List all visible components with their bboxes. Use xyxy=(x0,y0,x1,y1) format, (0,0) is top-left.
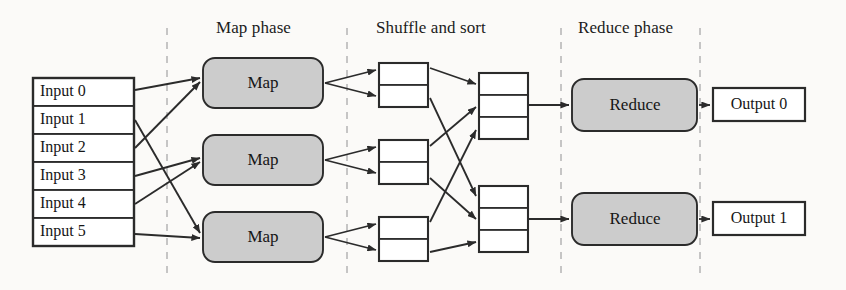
map-node-0 xyxy=(203,58,323,108)
map-node-1 xyxy=(203,135,323,185)
phase-label-reduce: Reduce phase xyxy=(578,18,673,38)
map-output-buffer-group xyxy=(379,63,428,261)
reduce-input-buffer-0-cell-2 xyxy=(479,117,528,139)
shuffle-arrow-group xyxy=(430,68,476,252)
arrow-map0-to-buffer0-cell0 xyxy=(325,70,376,83)
buffer-to-reduce-arrow-group xyxy=(529,105,569,219)
arrow-map1-to-buffer1-cell1 xyxy=(325,160,376,173)
map-to-buffer-arrow-group xyxy=(325,70,376,250)
map-output-buffer-2-cell-0 xyxy=(379,217,428,239)
map-node-2 xyxy=(203,212,323,262)
input-label-1: Input 1 xyxy=(40,110,86,128)
reduce-node-1 xyxy=(572,193,697,245)
arrow-shuffle-buffer0-to-reduce0 xyxy=(430,68,476,84)
arrow-map2-to-buffer2-cell0 xyxy=(325,224,376,237)
arrow-shuffle-buffer1-to-reduce1 xyxy=(430,178,476,219)
arrow-map0-to-buffer0-cell1 xyxy=(325,83,376,96)
arrow-map1-to-buffer1-cell0 xyxy=(325,147,376,160)
reduce-input-buffer-0-cell-1 xyxy=(479,95,528,117)
reduce-input-buffer-group xyxy=(479,73,528,252)
output-box-group xyxy=(713,88,805,235)
diagram-canvas xyxy=(0,0,846,290)
phase-label-shuffle: Shuffle and sort xyxy=(376,18,486,38)
map-output-buffer-2-cell-1 xyxy=(379,239,428,261)
arrow-input5-to-map2 xyxy=(135,234,200,238)
reduce-input-buffer-1-cell-1 xyxy=(479,208,528,230)
map-output-buffer-1-cell-0 xyxy=(379,140,428,162)
arrow-shuffle-buffer2-to-reduce1 xyxy=(430,242,476,252)
mapreduce-diagram: Map phase Shuffle and sort Reduce phase … xyxy=(0,0,846,290)
reduce-input-buffer-1-cell-2 xyxy=(479,230,528,252)
input-label-3: Input 3 xyxy=(40,166,86,184)
map-output-buffer-0-cell-1 xyxy=(379,85,428,107)
reduce-node-0 xyxy=(572,79,697,131)
map-output-buffer-0-cell-0 xyxy=(379,63,428,85)
map-output-buffer-1-cell-1 xyxy=(379,162,428,184)
arrow-shuffle-buffer2-to-reduce0 xyxy=(430,130,476,222)
reduce-input-buffer-1-cell-0 xyxy=(479,186,528,208)
arrow-input2-to-map0 xyxy=(135,82,200,148)
input-label-4: Input 4 xyxy=(40,194,86,212)
input-label-5: Input 5 xyxy=(40,222,86,240)
map-node-group xyxy=(203,58,323,262)
output-box-1 xyxy=(713,202,805,235)
phase-label-map: Map phase xyxy=(216,18,291,38)
input-label-0: Input 0 xyxy=(40,82,86,100)
output-box-0 xyxy=(713,88,805,121)
arrow-map2-to-buffer2-cell1 xyxy=(325,237,376,250)
reduce-node-group xyxy=(572,79,697,245)
reduce-input-buffer-0-cell-0 xyxy=(479,73,528,95)
input-label-2: Input 2 xyxy=(40,138,86,156)
input-split-list-shape xyxy=(33,78,134,246)
